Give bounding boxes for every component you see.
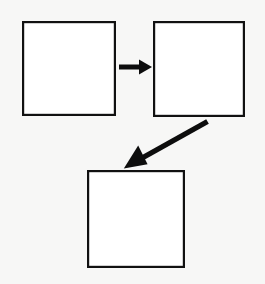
- node-box-1[interactable]: [23, 22, 115, 115]
- node-box-2-shape[interactable]: [154, 22, 244, 116]
- node-box-3-shape[interactable]: [88, 171, 184, 267]
- node-box-2[interactable]: [154, 22, 244, 116]
- node-box-3[interactable]: [88, 171, 184, 267]
- diagram-canvas: [0, 0, 265, 284]
- node-box-1-shape[interactable]: [23, 22, 115, 115]
- diagram-svg: [0, 0, 265, 284]
